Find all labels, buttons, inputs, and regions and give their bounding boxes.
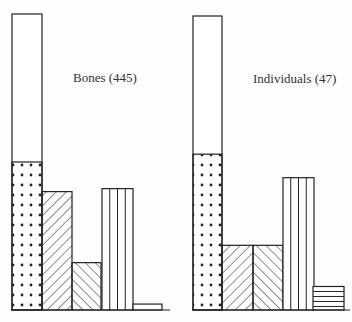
bar-hatch-back	[72, 263, 101, 310]
group-label-individuals: Individuals (47)	[253, 71, 336, 87]
bar-group-bones	[11, 14, 170, 310]
bar-hatch-forward	[42, 192, 72, 310]
bar-chart: Bones (445) Individuals (47)	[0, 0, 352, 322]
bar-hatch-back	[253, 245, 283, 310]
bar-dotted	[12, 162, 42, 310]
chart-canvas	[0, 0, 352, 322]
bar-horizontal-lines	[133, 304, 162, 310]
bar-hatch-forward	[222, 245, 253, 310]
bar-dotted	[193, 154, 222, 310]
group-label-bones: Bones (445)	[73, 70, 137, 86]
bars-layer	[11, 14, 350, 310]
bar-group-individuals	[192, 16, 350, 310]
